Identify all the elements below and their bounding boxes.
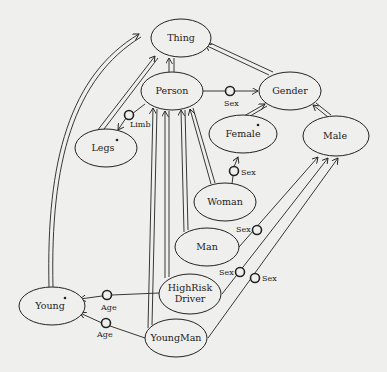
node-label-highrisk-line1: HighRisk <box>168 282 213 293</box>
role-label-woman-sex: Sex <box>241 168 256 177</box>
node-label-young: Young <box>34 300 64 311</box>
role-label-youngman-sex: Sex <box>262 274 277 283</box>
node-label-man: Man <box>196 241 218 252</box>
node-label-thing: Thing <box>167 32 195 43</box>
node-label-youngman: YoungMan <box>150 332 202 343</box>
node-label-gender: Gender <box>272 85 308 96</box>
role-ring-person-sex <box>226 87 235 96</box>
role-ring-person-limb <box>125 111 134 120</box>
link-highrisk-person <box>165 111 169 278</box>
link-youngman-person <box>148 108 157 328</box>
node-label-male: Male <box>323 130 347 141</box>
role-ring-highrisk-age <box>103 291 112 300</box>
link-person-thing <box>169 58 174 72</box>
role-label-man-sex: Sex <box>236 225 251 234</box>
role-ring-highrisk-sex <box>236 268 245 277</box>
role-label-youngman-age: Age <box>96 330 113 339</box>
node-label-person: Person <box>156 85 189 96</box>
role-label-highrisk-sex: Sex <box>219 268 234 277</box>
role-highrisk-age-young <box>80 293 159 299</box>
primitive-dot-female <box>257 124 260 127</box>
role-ring-man-sex <box>253 226 262 235</box>
role-ring-youngman-age <box>102 319 111 328</box>
role-ring-youngman-sex <box>251 274 260 283</box>
role-label-person-sex: Sex <box>224 99 239 108</box>
primitive-dot-young <box>64 297 67 300</box>
node-label-legs: Legs <box>92 142 115 153</box>
role-label-person-limb: Limb <box>130 120 151 129</box>
role-ring-woman-sex <box>230 167 239 176</box>
link-man-person <box>181 110 188 232</box>
node-label-highrisk-line2: Driver <box>175 293 206 304</box>
link-woman-person <box>190 108 215 184</box>
semantic-network-diagram: Sex Limb Sex Sex Sex Sex Age Age <box>0 0 387 372</box>
role-label-highrisk-age: Age <box>100 303 117 312</box>
primitive-dot-legs <box>116 139 119 142</box>
link-male-gender <box>313 103 331 117</box>
node-label-woman: Woman <box>207 196 243 207</box>
node-label-female: Female <box>225 128 260 139</box>
link-gender-thing <box>205 42 273 75</box>
